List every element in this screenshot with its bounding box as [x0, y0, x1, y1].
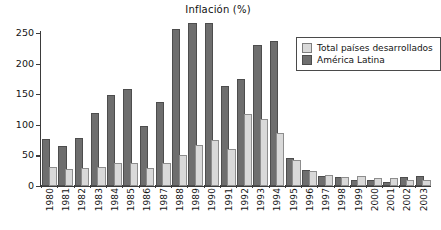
bar-total-paises-desarrollados[interactable]	[390, 178, 398, 186]
legend-item-total-paises-desarrollados[interactable]: Total países desarrollados	[302, 42, 433, 54]
x-axis-tick-label: 1996	[305, 188, 315, 211]
x-axis-tick-mark	[220, 185, 221, 188]
bar-total-paises-desarrollados[interactable]	[422, 180, 430, 186]
x-axis-tick-mark	[41, 185, 42, 188]
bar-total-paises-desarrollados[interactable]	[406, 180, 414, 186]
bar-group	[75, 33, 87, 186]
bar-total-paises-desarrollados[interactable]	[292, 160, 300, 186]
x-axis-tick-mark	[74, 185, 75, 188]
x-axis-tick-label: 1997	[321, 188, 331, 211]
y-axis-tick-label: 50	[0, 149, 34, 160]
x-axis-tick-mark	[171, 185, 172, 188]
x-axis-tick-label: 1983	[94, 188, 104, 211]
bar-total-paises-desarrollados[interactable]	[114, 163, 122, 186]
x-axis-tick-label: 1987	[159, 188, 169, 211]
x-axis: 1980198119821983198419851986198719881989…	[41, 188, 431, 230]
bar-group	[205, 33, 217, 186]
bar-group	[270, 33, 282, 186]
x-axis-tick-mark	[204, 185, 205, 188]
legend: Total países desarrollados América Latin…	[296, 37, 441, 71]
x-axis-tick-label: 1998	[337, 188, 347, 211]
x-axis-tick-mark	[236, 185, 237, 188]
bar-total-paises-desarrollados[interactable]	[341, 177, 349, 186]
bar-group	[91, 33, 103, 186]
x-axis-tick-label: 2001	[386, 188, 396, 211]
x-axis-tick-mark	[90, 185, 91, 188]
x-axis-tick-label: 2003	[419, 188, 429, 211]
bar-total-paises-desarrollados[interactable]	[162, 163, 170, 186]
x-axis-tick-mark	[106, 185, 107, 188]
legend-label: América Latina	[317, 55, 385, 65]
x-axis-tick-mark	[334, 185, 335, 188]
bar-total-paises-desarrollados[interactable]	[309, 171, 317, 186]
bar-group	[107, 33, 119, 186]
x-axis-tick-label: 1980	[45, 188, 55, 211]
bar-group	[237, 33, 249, 186]
x-axis-tick-mark	[252, 185, 253, 188]
x-axis-tick-label: 2000	[370, 188, 380, 211]
legend-swatch-icon-light	[302, 43, 312, 53]
legend-item-america-latina[interactable]: América Latina	[302, 54, 433, 66]
bar-total-paises-desarrollados[interactable]	[179, 155, 187, 186]
x-axis-tick-mark	[155, 185, 156, 188]
legend-swatch-icon-dark	[302, 55, 312, 65]
bar-group	[58, 33, 70, 186]
y-axis-tick-label: 100	[0, 119, 34, 130]
x-axis-tick-mark	[317, 185, 318, 188]
x-axis-tick-label: 1981	[61, 188, 71, 211]
x-axis-tick-mark	[301, 185, 302, 188]
bar-group	[123, 33, 135, 186]
bar-total-paises-desarrollados[interactable]	[65, 169, 73, 186]
x-axis-tick-mark	[366, 185, 367, 188]
bar-group	[42, 33, 54, 186]
bar-total-paises-desarrollados[interactable]	[357, 176, 365, 186]
bar-total-paises-desarrollados[interactable]	[374, 178, 382, 186]
x-axis-tick-label: 1990	[207, 188, 217, 211]
bar-group	[140, 33, 152, 186]
x-axis-tick-label: 1989	[191, 188, 201, 211]
y-axis-tick-label: 200	[0, 58, 34, 69]
chart-title: Inflación (%)	[0, 4, 436, 15]
x-axis-tick-label: 1982	[77, 188, 87, 211]
x-axis-tick-label: 1993	[256, 188, 266, 211]
bar-total-paises-desarrollados[interactable]	[227, 149, 235, 186]
bar-total-paises-desarrollados[interactable]	[244, 114, 252, 186]
x-axis-tick-mark	[187, 185, 188, 188]
bar-group	[221, 33, 233, 186]
x-axis-tick-mark	[382, 185, 383, 188]
bar-total-paises-desarrollados[interactable]	[195, 145, 203, 186]
x-axis-tick-mark	[269, 185, 270, 188]
x-axis-tick-label: 1988	[175, 188, 185, 211]
x-axis-tick-mark	[350, 185, 351, 188]
bar-total-paises-desarrollados[interactable]	[97, 167, 105, 186]
x-axis-tick-mark	[57, 185, 58, 188]
x-axis-tick-label: 1999	[354, 188, 364, 211]
bar-total-paises-desarrollados[interactable]	[81, 168, 89, 186]
bar-total-paises-desarrollados[interactable]	[260, 119, 268, 186]
bar-group	[156, 33, 168, 186]
y-axis-tick-label: 0	[0, 180, 34, 191]
x-axis-tick-label: 1995	[289, 188, 299, 211]
x-axis-tick-mark	[415, 185, 416, 188]
x-axis-tick-mark	[139, 185, 140, 188]
x-axis-tick-label: 2002	[402, 188, 412, 211]
y-axis-tick-label: 150	[0, 88, 34, 99]
bar-group	[188, 33, 200, 186]
bar-total-paises-desarrollados[interactable]	[325, 175, 333, 186]
x-axis-tick-label: 1984	[110, 188, 120, 211]
bar-total-paises-desarrollados[interactable]	[49, 167, 57, 186]
bar-total-paises-desarrollados[interactable]	[211, 140, 219, 186]
x-axis-tick-label: 1992	[240, 188, 250, 211]
bar-total-paises-desarrollados[interactable]	[130, 163, 138, 186]
x-axis-tick-mark	[399, 185, 400, 188]
x-axis-tick-mark	[285, 185, 286, 188]
x-axis-tick-label: 1986	[142, 188, 152, 211]
bar-total-paises-desarrollados[interactable]	[146, 168, 154, 186]
y-axis-tick-label: 250	[0, 27, 34, 38]
bar-total-paises-desarrollados[interactable]	[276, 133, 284, 186]
x-axis-tick-mark	[122, 185, 123, 188]
bar-group	[253, 33, 265, 186]
x-axis-tick-label: 1985	[126, 188, 136, 211]
bar-group	[172, 33, 184, 186]
